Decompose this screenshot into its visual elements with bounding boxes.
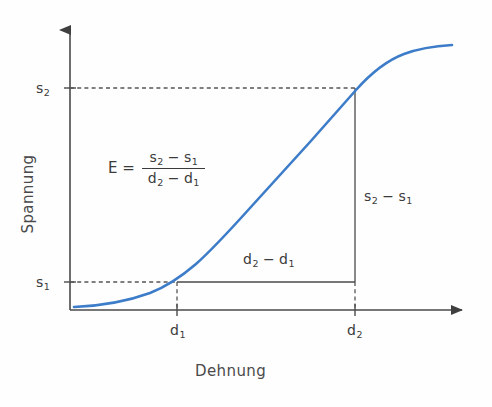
y-tick-label-s2: s2 xyxy=(36,80,50,96)
y-axis-title: Spannung xyxy=(19,144,37,244)
x-axis-title: Dehnung xyxy=(195,362,266,380)
formula-lhs: E = xyxy=(108,159,135,177)
formula-fraction: s2 − s1 d2 − d1 xyxy=(142,148,206,188)
formula-numerator: s2 − s1 xyxy=(143,148,203,168)
annotation-rise: s2 − s1 xyxy=(364,188,412,204)
formula-denominator: d2 − d1 xyxy=(142,169,206,189)
y-tick-label-s1: s1 xyxy=(36,274,50,290)
annotation-run: d2 − d1 xyxy=(243,251,295,267)
youngs-modulus-formula: E = s2 − s1 d2 − d1 xyxy=(108,148,205,188)
x-tick-label-d2: d2 xyxy=(347,322,362,338)
chart-canvas xyxy=(0,0,492,407)
x-tick-label-d1: d1 xyxy=(170,322,185,338)
stress-strain-diagram: s2 s1 d1 d2 s2 − s1 d2 − d1 E = s2 − s1 … xyxy=(0,0,492,407)
